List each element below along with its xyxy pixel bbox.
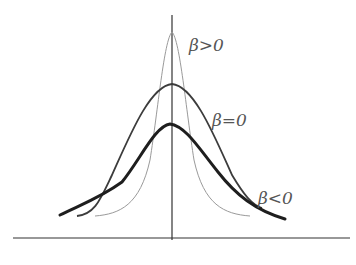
diagram-canvas: β>0 β=0 β<0 (0, 0, 356, 265)
label-beta-zero: β=0 (211, 110, 247, 130)
label-beta-positive: β>0 (188, 35, 224, 55)
curve-beta-zero (77, 84, 262, 216)
distribution-diagram: β>0 β=0 β<0 (0, 0, 356, 265)
label-beta-negative: β<0 (257, 188, 293, 208)
